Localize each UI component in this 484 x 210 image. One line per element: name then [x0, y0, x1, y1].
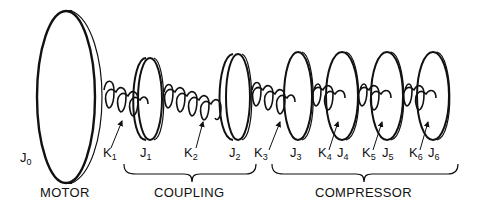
- motor-caption: MOTOR: [40, 185, 90, 200]
- label-j4: J4: [337, 145, 349, 162]
- label-j5: J5: [382, 145, 394, 162]
- spring-k5: [359, 84, 391, 110]
- label-j3: J3: [290, 145, 302, 162]
- label-j2: J2: [229, 145, 241, 162]
- disk-j4: [326, 52, 359, 140]
- disk-j5: [371, 52, 404, 140]
- motor-disk: [37, 11, 102, 183]
- label-j0: J0: [20, 150, 32, 167]
- coupling-caption: COUPLING: [154, 185, 224, 200]
- disk-j2: [219, 54, 251, 140]
- label-j1: J1: [140, 145, 152, 162]
- compressor-brace: [272, 164, 458, 182]
- compressor-caption: COMPRESSOR: [315, 185, 412, 200]
- label-j6: J6: [428, 145, 440, 162]
- disk-j1: [133, 58, 164, 140]
- spring-k2: [164, 85, 221, 120]
- spring-k3: [252, 83, 295, 114]
- coupling-brace: [124, 164, 256, 182]
- spring-k6: [404, 84, 436, 110]
- label-k1: K1: [103, 145, 117, 162]
- label-k3: K3: [254, 145, 268, 162]
- drivetrain-diagram: J0 K1 J1 K2 J2 K3 J3 K4 J4 K5 J5 K6 J6 M…: [0, 0, 484, 210]
- spring-k4: [313, 84, 345, 110]
- disk-j6: [417, 52, 450, 140]
- spring-k1: [104, 81, 148, 116]
